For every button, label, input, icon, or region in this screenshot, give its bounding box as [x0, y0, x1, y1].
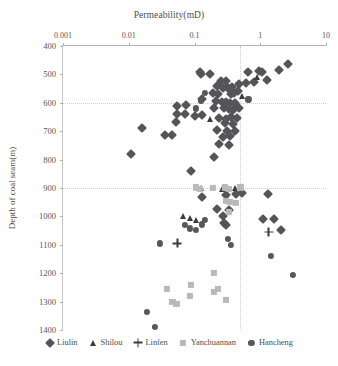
legend-label: Linfen: [145, 338, 167, 347]
data-point-liulin: [172, 109, 182, 119]
data-point-liulin: [187, 166, 197, 176]
x-tick-mark: [260, 43, 261, 46]
data-point-liulin: [218, 132, 228, 142]
data-point-liulin: [137, 123, 147, 133]
data-point-liulin: [258, 214, 268, 224]
data-point-hancheng: [144, 308, 150, 314]
data-point-liulin: [212, 204, 222, 214]
y-axis-title: Depth of coal seam(m): [6, 45, 18, 330]
data-point-liulin: [219, 218, 229, 228]
y-tick-mark: [60, 160, 63, 161]
data-point-liulin: [127, 150, 137, 160]
y-tick-label: 1200: [39, 268, 56, 278]
x-tick-label: 0.01: [122, 31, 136, 40]
data-point-hancheng: [187, 225, 193, 231]
triangle-icon: [89, 338, 98, 347]
y-tick-label: 800: [43, 155, 56, 165]
data-point-hancheng: [198, 221, 204, 227]
data-point-liulin: [222, 82, 232, 92]
data-point-hancheng: [193, 227, 199, 233]
x-tick-mark: [195, 43, 196, 46]
data-point-liulin: [213, 89, 223, 99]
data-point-liulin: [160, 130, 170, 140]
square-icon: [179, 338, 188, 347]
data-point-liulin: [262, 75, 272, 85]
data-point-liulin: [220, 118, 230, 128]
data-point-linfen: [173, 239, 182, 248]
y-tick-label: 1100: [39, 240, 56, 250]
legend-item-shilou[interactable]: Shilou: [89, 338, 123, 347]
legend-item-yanchuannan[interactable]: Yanchuannan: [179, 338, 236, 347]
data-point-liulin: [233, 86, 243, 96]
data-point-liulin: [269, 214, 279, 224]
data-point-liulin: [205, 69, 215, 79]
data-point-shilou: [180, 213, 186, 219]
data-point-hancheng: [289, 272, 295, 278]
data-point-liulin: [283, 59, 293, 69]
data-point-liulin: [224, 205, 234, 215]
data-point-liulin: [196, 69, 206, 79]
data-point-liulin: [218, 211, 228, 221]
x-tick-label: 1: [258, 31, 262, 40]
data-point-liulin: [197, 192, 207, 202]
data-point-liulin: [229, 88, 239, 98]
data-point-yanchuannan: [225, 209, 231, 215]
data-point-liulin: [216, 76, 226, 86]
data-point-liulin: [212, 125, 222, 135]
data-point-liulin: [195, 67, 205, 77]
data-point-yanchuannan: [188, 281, 194, 287]
legend-item-liulin[interactable]: Liulin: [45, 338, 77, 347]
data-point-liulin: [224, 84, 234, 94]
gridline-horizontal: [63, 188, 326, 189]
x-tick-mark: [63, 43, 64, 46]
data-point-liulin: [212, 81, 222, 91]
data-point-liulin: [234, 79, 244, 89]
legend-item-linfen[interactable]: Linfen: [133, 338, 167, 347]
x-tick-label: 0.1: [190, 31, 200, 40]
data-point-hancheng: [245, 96, 251, 102]
data-point-liulin: [226, 112, 236, 122]
x-axis-title: Permeability(mD): [0, 10, 338, 20]
data-point-liulin: [209, 152, 219, 162]
legend-label: Yanchuannan: [191, 338, 236, 347]
data-point-liulin: [221, 220, 231, 230]
data-point-liulin: [274, 65, 284, 75]
x-tick-mark: [129, 43, 130, 46]
data-point-hancheng: [202, 90, 208, 96]
gridline-horizontal: [63, 103, 326, 104]
plus-icon: [133, 338, 142, 347]
data-point-liulin: [241, 79, 251, 89]
data-point-liulin: [226, 89, 236, 99]
data-point-yanchuannan: [211, 289, 217, 295]
y-tick-mark: [60, 302, 63, 303]
data-point-liulin: [215, 113, 225, 123]
data-point-hancheng: [152, 324, 158, 330]
data-point-yanchuannan: [227, 199, 233, 205]
data-point-liulin: [254, 66, 264, 76]
x-tick-label: 0.001: [54, 31, 72, 40]
data-point-yanchuannan: [215, 286, 221, 292]
y-tick-label: 700: [43, 126, 56, 136]
y-tick-mark: [60, 74, 63, 75]
y-tick-mark: [60, 46, 63, 47]
data-point-liulin: [217, 97, 227, 107]
data-point-liulin: [224, 104, 234, 114]
legend-label: Shilou: [101, 338, 123, 347]
x-tick-label: 10: [322, 31, 330, 40]
data-point-liulin: [221, 114, 231, 124]
y-tick-label: 400: [43, 41, 56, 51]
data-point-liulin: [224, 140, 234, 150]
data-point-yanchuannan: [173, 301, 179, 307]
legend-item-hancheng[interactable]: Hancheng: [247, 338, 293, 347]
data-point-liulin: [249, 77, 259, 87]
data-point-yanchuannan: [233, 200, 239, 206]
data-point-liulin: [221, 76, 231, 86]
data-point-hancheng: [193, 105, 199, 111]
data-point-liulin: [215, 139, 225, 149]
data-point-linfen: [264, 228, 273, 237]
diamond-icon: [45, 338, 54, 347]
data-point-liulin: [221, 190, 231, 200]
data-point-liulin: [222, 126, 232, 136]
data-point-liulin: [208, 88, 218, 98]
y-tick-mark: [60, 216, 63, 217]
